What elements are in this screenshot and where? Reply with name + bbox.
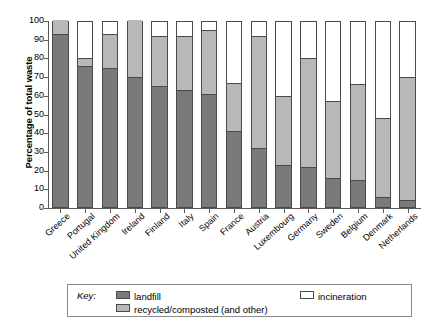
segment-landfill	[301, 168, 316, 207]
segment-divider	[326, 178, 341, 179]
segment-landfill	[128, 78, 143, 207]
segment-divider	[252, 36, 267, 37]
y-axis-tick-90	[44, 40, 48, 41]
legend-item-landfill: landfill	[116, 290, 161, 302]
segment-recycled	[252, 37, 267, 149]
segment-divider	[202, 30, 217, 31]
segment-landfill	[252, 149, 267, 207]
segment-divider	[400, 77, 415, 78]
segment-landfill	[78, 67, 93, 207]
bar-germany[interactable]	[300, 21, 317, 208]
bar-netherlands[interactable]	[399, 21, 416, 208]
segment-landfill	[400, 201, 415, 207]
x-axis-label-italy: Italy	[177, 211, 196, 229]
segment-recycled	[301, 59, 316, 167]
legend-item-recycled-label: recycled/composted (and other)	[134, 304, 268, 315]
bar-greece[interactable]	[52, 21, 69, 208]
bar-spain[interactable]	[201, 21, 218, 208]
bar-ireland[interactable]	[127, 21, 144, 208]
y-axis-tick-label-90: 90	[22, 35, 44, 44]
segment-divider	[351, 180, 366, 181]
segment-divider	[177, 36, 192, 37]
segment-landfill	[276, 166, 291, 207]
segment-divider	[376, 197, 391, 198]
segment-recycled	[152, 37, 167, 87]
segment-divider	[78, 58, 93, 59]
segment-divider	[376, 118, 391, 119]
segment-recycled	[227, 84, 242, 133]
y-axis-tick-80	[44, 58, 48, 59]
segment-divider	[227, 131, 242, 132]
y-axis-tick-label-70: 70	[22, 72, 44, 81]
x-axis-label-sweden: Sweden	[314, 211, 345, 240]
y-axis-tick-label-100: 100	[22, 16, 44, 25]
y-axis-tick-labels: 0102030405060708090100	[18, 21, 44, 209]
y-axis-line	[48, 21, 49, 209]
plot-area	[48, 21, 420, 208]
incineration-swatch-icon	[300, 291, 314, 299]
legend-item-incineration-label: incineration	[318, 291, 367, 302]
segment-recycled	[128, 20, 143, 78]
segment-landfill	[202, 95, 217, 207]
y-axis-tick-label-80: 80	[22, 53, 44, 62]
bar-belgium[interactable]	[350, 21, 367, 208]
bar-united-kingdom[interactable]	[102, 21, 119, 208]
y-axis-tick-label-0: 0	[22, 203, 44, 212]
segment-divider	[351, 84, 366, 85]
bar-italy[interactable]	[176, 21, 193, 208]
y-axis-tick-label-30: 30	[22, 147, 44, 156]
segment-landfill	[152, 87, 167, 207]
legend-item-landfill-label: landfill	[134, 291, 161, 302]
segment-recycled	[400, 78, 415, 201]
segment-recycled	[351, 85, 366, 180]
legend-key-label: Key:	[77, 290, 96, 301]
bar-luxembourg[interactable]	[275, 21, 292, 208]
bar-portugal[interactable]	[77, 21, 94, 208]
segment-recycled	[276, 97, 291, 166]
bar-finland[interactable]	[151, 21, 168, 208]
x-axis-label-france: France	[218, 211, 246, 237]
segment-divider	[227, 83, 242, 84]
y-axis-tick-70	[44, 77, 48, 78]
x-axis-label-ireland: Ireland	[119, 211, 146, 237]
segment-divider	[202, 94, 217, 95]
y-axis-tick-30	[44, 152, 48, 153]
bar-denmark[interactable]	[375, 21, 392, 208]
segment-landfill	[227, 132, 242, 207]
stacked-bar-chart: Percentage of total waste 01020304050607…	[0, 0, 426, 327]
y-axis-tick-10	[44, 189, 48, 190]
y-axis-tick-label-10: 10	[22, 184, 44, 193]
segment-recycled	[103, 35, 118, 69]
x-axis-category-labels: GreecePortugalUnited KingdomIrelandFinla…	[48, 211, 420, 271]
x-axis-label-spain: Spain	[197, 211, 221, 234]
landfill-swatch-icon	[116, 291, 130, 299]
y-axis-tick-40	[44, 133, 48, 134]
segment-divider	[276, 165, 291, 166]
y-axis-tick-label-20: 20	[22, 166, 44, 175]
segment-divider	[301, 167, 316, 168]
segment-landfill	[376, 198, 391, 207]
bar-sweden[interactable]	[325, 21, 342, 208]
segment-recycled	[376, 119, 391, 198]
y-axis-tick-label-50: 50	[22, 110, 44, 119]
legend-item-incineration: incineration	[300, 290, 367, 302]
segment-landfill	[103, 69, 118, 207]
y-axis-tick-label-60: 60	[22, 91, 44, 100]
bar-austria[interactable]	[251, 21, 268, 208]
y-axis-tick-50	[44, 115, 48, 116]
segment-divider	[177, 90, 192, 91]
segment-landfill	[351, 181, 366, 207]
segment-recycled	[53, 20, 68, 35]
segment-recycled	[326, 102, 341, 179]
segment-landfill	[53, 35, 68, 207]
y-axis-tick-0	[44, 208, 48, 209]
segment-divider	[252, 148, 267, 149]
y-axis-tick-20	[44, 171, 48, 172]
legend: Key: landfill recycled/composted (and ot…	[67, 284, 412, 317]
segment-divider	[152, 36, 167, 37]
segment-divider	[53, 34, 68, 35]
bar-france[interactable]	[226, 21, 243, 208]
segment-divider	[400, 200, 415, 201]
y-axis-tick-100	[44, 21, 48, 22]
segment-landfill	[326, 179, 341, 207]
